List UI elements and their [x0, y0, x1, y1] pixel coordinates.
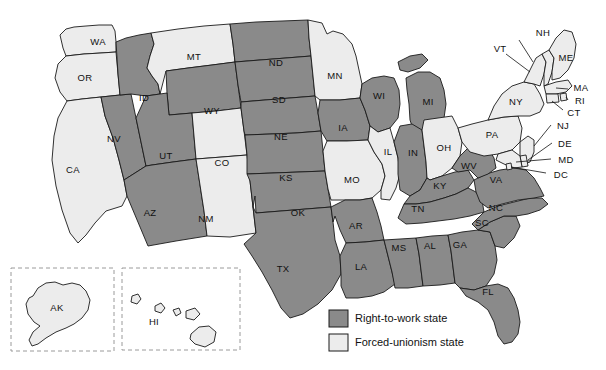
state-label-NM: NM: [198, 213, 213, 224]
state-DC[interactable]: [506, 163, 512, 170]
state-label-MO: MO: [344, 174, 360, 185]
state-label-SC: SC: [475, 217, 489, 228]
state-AK[interactable]: [26, 282, 90, 346]
leader-line-NH: [519, 40, 533, 62]
state-label-OH: OH: [437, 142, 452, 153]
legend-swatch-right-to-work: [329, 310, 348, 327]
state-label-NH: NH: [536, 27, 550, 38]
legend-label-forced-unionism: Forced-unionism state: [355, 336, 464, 348]
state-label-FL: FL: [482, 286, 494, 297]
state-label-AZ: AZ: [144, 207, 157, 218]
us-right-to-work-map: WA OR CA NV ID MT WY UT AZ CO NM ND SD N…: [0, 0, 606, 370]
state-label-WY: WY: [204, 105, 220, 116]
state-label-MI: MI: [422, 96, 433, 107]
state-label-MT: MT: [187, 51, 201, 62]
state-label-IN: IN: [408, 147, 418, 158]
state-label-ID: ID: [139, 92, 149, 103]
state-label-CA: CA: [66, 164, 80, 175]
state-RI[interactable]: [560, 93, 567, 101]
state-label-TX: TX: [277, 263, 290, 274]
state-AZ[interactable]: [124, 159, 207, 246]
state-label-OK: OK: [291, 207, 306, 218]
state-label-MD: MD: [558, 154, 573, 165]
state-label-SD: SD: [272, 94, 286, 105]
us-map-container: WA OR CA NV ID MT WY UT AZ CO NM ND SD N…: [0, 0, 606, 370]
state-label-KY: KY: [433, 180, 447, 191]
state-label-WI: WI: [373, 90, 385, 101]
state-label-AL: AL: [424, 240, 436, 251]
leader-line-NJ: [534, 125, 551, 146]
state-label-WA: WA: [90, 36, 106, 47]
state-label-NJ: NJ: [557, 120, 569, 131]
state-label-DC: DC: [554, 169, 568, 180]
state-label-MS: MS: [392, 242, 407, 253]
state-label-UT: UT: [159, 150, 172, 161]
map-legend: Right-to-work state Forced-unionism stat…: [329, 310, 464, 351]
legend-swatch-forced-unionism: [329, 334, 348, 351]
state-label-MA: MA: [574, 82, 589, 93]
state-label-MN: MN: [327, 70, 342, 81]
state-label-ME: ME: [559, 52, 574, 63]
state-label-NV: NV: [107, 133, 121, 144]
state-CO[interactable]: [192, 108, 247, 159]
state-label-GA: GA: [453, 239, 468, 250]
state-label-VT: VT: [494, 43, 507, 54]
state-label-LA: LA: [355, 261, 368, 272]
state-label-AK: AK: [50, 302, 64, 313]
state-label-HI: HI: [149, 316, 159, 327]
legend-label-right-to-work: Right-to-work state: [355, 312, 447, 324]
state-label-RI: RI: [575, 95, 585, 106]
state-label-NY: NY: [509, 96, 523, 107]
state-label-CT: CT: [567, 107, 580, 118]
state-HI[interactable]: [131, 294, 216, 347]
state-label-NE: NE: [274, 131, 288, 142]
state-TX[interactable]: [244, 207, 341, 318]
state-label-PA: PA: [486, 129, 499, 140]
state-label-TN: TN: [411, 203, 424, 214]
state-MN[interactable]: [308, 20, 362, 100]
state-label-NC: NC: [489, 202, 503, 213]
state-label-WV: WV: [461, 160, 477, 171]
state-IN[interactable]: [394, 124, 427, 196]
state-label-VA: VA: [490, 174, 503, 185]
state-label-IL: IL: [384, 146, 393, 157]
state-label-AR: AR: [349, 220, 363, 231]
state-label-ND: ND: [269, 57, 283, 68]
state-WA[interactable]: [60, 25, 116, 56]
hawaii-inset-box: [122, 268, 240, 350]
state-label-OR: OR: [78, 72, 93, 83]
state-label-KS: KS: [279, 172, 292, 183]
state-label-IA: IA: [338, 122, 348, 133]
state-label-CO: CO: [215, 157, 230, 168]
leader-line-VT: [506, 54, 530, 72]
state-label-DE: DE: [558, 138, 572, 149]
